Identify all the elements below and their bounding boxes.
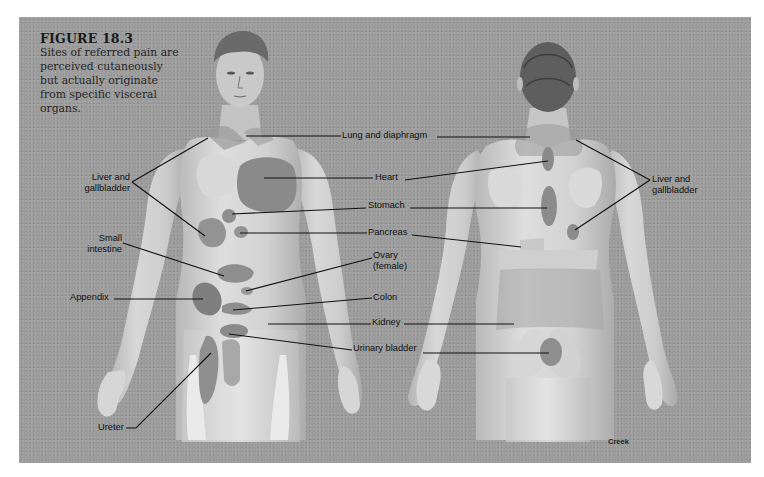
label-line: (female): [373, 261, 407, 272]
label-line: Liver and: [652, 174, 698, 185]
label-line: Liver and: [70, 172, 130, 183]
label-pancreas: Pancreas: [368, 227, 407, 238]
back-head: [520, 42, 576, 112]
label-lung-diaphragm: Lung and diaphragm: [342, 130, 427, 141]
caption-line-4: from specific visceral: [40, 88, 210, 102]
label-line: intestine: [70, 244, 122, 255]
region-heart: [237, 157, 297, 212]
region-stomach: [222, 209, 236, 223]
label-colon: Colon: [373, 292, 397, 303]
region-stomach-back: [541, 186, 557, 226]
label-kidney: Kidney: [372, 317, 400, 328]
label-line: Small: [70, 233, 122, 244]
back-waist: [498, 250, 598, 270]
label-stomach: Stomach: [368, 200, 405, 211]
label-small-intestine: Small intestine: [70, 233, 122, 255]
artist-signature: Creek: [608, 437, 629, 446]
front-left-eye: [246, 71, 254, 74]
label-heart: Heart: [375, 172, 398, 183]
label-line: gallbladder: [652, 185, 698, 196]
back-right-ear: [573, 77, 579, 91]
front-genital: [222, 339, 240, 386]
label-line: Ovary: [373, 250, 407, 261]
label-ovary: Ovary (female): [373, 250, 407, 272]
label-appendix: Appendix: [70, 292, 109, 303]
posterior-figure: [408, 42, 678, 442]
region-heart-back: [542, 147, 554, 171]
figure-caption: FIGURE 18.3 Sites of referred pain are p…: [40, 31, 210, 116]
label-ureter: Ureter: [98, 422, 124, 433]
caption-line-2: perceived cutaneously: [40, 60, 210, 74]
region-liver-back: [567, 224, 579, 240]
label-liver-gallbladder-right: Liver and gallbladder: [652, 174, 698, 196]
label-urinary-bladder: Urinary bladder: [353, 343, 417, 354]
caption-line-3: but actually originate: [40, 74, 210, 88]
label-liver-gallbladder-left: Liver and gallbladder: [70, 172, 130, 194]
caption-line-5: organs.: [40, 102, 210, 116]
back-legs: [506, 378, 590, 442]
region-pancreas-back: [520, 238, 544, 250]
figure-number: FIGURE 18.3: [40, 31, 210, 46]
back-left-ear: [517, 77, 523, 91]
label-line: gallbladder: [70, 183, 130, 194]
caption-line-1: Sites of referred pain are: [40, 46, 210, 60]
region-pancreas: [234, 226, 248, 238]
region-kidney-back: [496, 269, 604, 331]
region-bladder-back: [540, 338, 562, 366]
front-right-eye: [227, 71, 235, 74]
